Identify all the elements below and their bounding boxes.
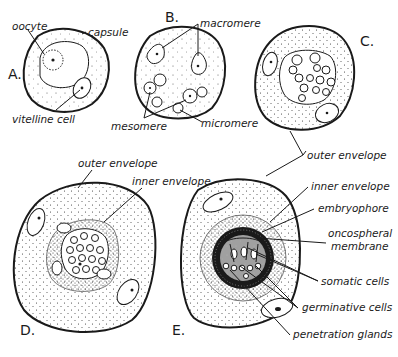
label-embryophore: embryophore [318,202,389,214]
panel-letter-d: D. [20,322,35,338]
mesomere [152,97,162,107]
panel-a: oocyte capsule A. vitelline cell [8,20,128,125]
label-inner-envelope-e: inner envelope [311,180,390,192]
label-mesomere: mesomere [111,120,167,132]
leader-line [266,155,303,176]
nucleus [270,61,273,64]
nucleus [38,217,41,220]
label-outer-envelope-d: outer envelope [78,157,158,169]
embryo-development-diagram: oocyte capsule A. vitelline cell B. macr… [0,0,398,357]
label-macromere: macromere [200,17,261,29]
nucleus [219,197,222,200]
nucleus [131,289,134,292]
label-outer-envelope-c: outer envelope [307,149,387,161]
panel-letter-c: C. [360,33,374,49]
leader-line [290,131,306,155]
nucleus [156,53,159,56]
panel-letter-b: B. [165,9,179,25]
label-vitelline-cell: vitelline cell [12,113,75,125]
label-capsule: capsule [88,26,128,38]
label-oncospheral: oncospheral [328,227,392,239]
label-germinative-cells: germinative cells [302,301,393,313]
nucleus [326,112,329,115]
nucleus [197,65,200,68]
vitelline-nucleus [81,87,84,90]
label-inner-envelope-d: inner envelope [132,175,211,187]
label-membrane: membrane [331,240,388,252]
label-somatic-cells: somatic cells [321,275,390,287]
micromere [197,87,207,97]
vitelline-cell [57,223,71,233]
vitelline-cell [52,261,62,275]
panel-c: C. outer envelope [255,26,386,176]
mesomere [154,74,166,86]
oncosphere-fill [220,235,266,281]
panel-letter-e: E. [172,322,185,338]
panel-letter-a: A. [8,66,22,82]
label-penetration-glands: penetration glands [292,328,393,340]
oocyte-nucleolus [51,58,54,61]
nucleus [149,87,151,89]
panel-b: B. macromere mesomere micromere [111,9,261,132]
label-oocyte: oocyte [12,20,47,32]
nucleus [189,95,191,97]
label-micromere: micromere [201,117,258,129]
nucleus [275,307,281,311]
panel-e: inner envelope embryophore oncospheral m… [172,179,393,340]
vitelline-cell [97,269,111,279]
